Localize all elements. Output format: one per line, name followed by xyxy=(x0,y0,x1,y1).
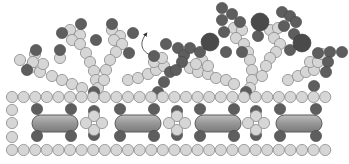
lattice-bead-top xyxy=(122,91,133,102)
large-bead xyxy=(251,13,269,31)
terminal-bead xyxy=(30,44,41,55)
lattice-bead-bottom xyxy=(6,144,17,155)
lattice-bead-top xyxy=(76,91,87,102)
terminal-bead xyxy=(236,46,247,57)
lattice-bead-bottom xyxy=(157,144,168,155)
chain-bead xyxy=(37,58,48,69)
lattice-bead-bottom xyxy=(215,144,226,155)
terminal-bead xyxy=(123,47,134,58)
chain-bead xyxy=(210,72,221,83)
lattice-bead-side xyxy=(6,117,17,128)
lattice-bead-top xyxy=(99,91,110,102)
lattice-bead-bottom xyxy=(122,144,133,155)
lattice-bead-top xyxy=(296,91,307,102)
lattice-bead-side xyxy=(6,104,17,115)
rod-end-bead xyxy=(65,130,76,141)
lattice-bead-top xyxy=(64,91,75,102)
lattice-bead-bottom xyxy=(192,144,203,155)
rod-end-bead xyxy=(114,103,125,114)
lattice-bead-bottom xyxy=(320,144,331,155)
lattice-bead-bottom xyxy=(30,144,41,155)
lattice-bead-bottom xyxy=(285,144,296,155)
chain-bead xyxy=(56,74,67,85)
chain-bead xyxy=(104,54,115,65)
lattice-bead-top xyxy=(88,91,99,102)
terminal-bead xyxy=(252,30,263,41)
lattice-bead-top xyxy=(238,91,249,102)
rod-end-bead xyxy=(31,103,42,114)
rod-end-bead xyxy=(148,130,159,141)
terminal-bead xyxy=(234,16,245,27)
chain-bead xyxy=(256,70,267,81)
chain-bead xyxy=(190,58,201,69)
terminal-bead xyxy=(322,56,333,67)
cross-bead xyxy=(80,117,91,128)
cross-bead xyxy=(258,117,269,128)
terminal-bead xyxy=(75,18,86,29)
lattice-bead-bottom xyxy=(134,144,145,155)
rod-unit xyxy=(32,115,78,132)
lattice-bead-bottom xyxy=(18,144,29,155)
lattice-bead-top xyxy=(41,91,52,102)
rod-end-bead xyxy=(148,103,159,114)
lattice-bead-bottom xyxy=(262,144,273,155)
terminal-bead xyxy=(278,20,289,31)
chain-bead xyxy=(228,78,239,89)
large-bead xyxy=(201,33,219,51)
lattice-bead-top xyxy=(53,91,64,102)
lattice-bead-top xyxy=(30,91,41,102)
rod-end-bead xyxy=(194,130,205,141)
chain-bead xyxy=(46,70,57,81)
rod-end-bead xyxy=(65,103,76,114)
lattice-bead-bottom xyxy=(41,144,52,155)
terminal-bead xyxy=(184,42,195,53)
lattice-bead-top xyxy=(146,91,157,102)
rod-end-bead xyxy=(114,130,125,141)
lattice-bead-bottom xyxy=(76,144,87,155)
lattice-bead-bottom xyxy=(296,144,307,155)
lattice-bead-bottom xyxy=(53,144,64,155)
rod-end-bead xyxy=(310,130,321,141)
chain-bead xyxy=(98,74,109,85)
lattice-bead-top xyxy=(250,91,261,102)
lattice-bead-top xyxy=(215,91,226,102)
terminal-bead xyxy=(216,14,227,25)
lattice-bead-top xyxy=(262,91,273,102)
lattice-bead-bottom xyxy=(227,144,238,155)
rod-end-bead xyxy=(228,103,239,114)
terminal-bead xyxy=(170,64,181,75)
rod-end-bead xyxy=(194,103,205,114)
lattice-bead-bottom xyxy=(204,144,215,155)
terminal-bead xyxy=(21,64,32,75)
cross-bead xyxy=(163,117,174,128)
chain-bead xyxy=(100,64,111,75)
rod-end-bead xyxy=(310,103,321,114)
rod-unit xyxy=(115,115,161,132)
lattice-bead-bottom xyxy=(64,144,75,155)
lattice-bead-top xyxy=(169,91,180,102)
lattice-bead-top xyxy=(308,91,319,102)
chain-bead xyxy=(66,78,77,89)
rod-end-bead xyxy=(274,130,285,141)
terminal-bead xyxy=(312,47,323,58)
cross-bead xyxy=(242,117,253,128)
terminal-bead xyxy=(324,46,335,57)
lattice-bead-bottom xyxy=(111,144,122,155)
curved-arrow-icon xyxy=(142,34,150,55)
lattice-bead-top xyxy=(227,91,238,102)
lattice-bead-bottom xyxy=(308,144,319,155)
lattice-bead-top xyxy=(320,91,331,102)
terminal-bead xyxy=(148,50,159,61)
lattice-bead-bottom xyxy=(169,144,180,155)
terminal-bead xyxy=(218,26,229,37)
cross-bead xyxy=(179,117,190,128)
chain-bead xyxy=(246,64,257,75)
terminal-bead xyxy=(54,44,65,55)
lattice-bead-top xyxy=(180,91,191,102)
lattice-bead-top xyxy=(273,91,284,102)
rod-unit xyxy=(195,115,241,132)
rod-end-bead xyxy=(228,130,239,141)
lattice-bead-top xyxy=(204,91,215,102)
terminal-bead xyxy=(320,66,331,77)
rod-end-bead xyxy=(31,130,42,141)
